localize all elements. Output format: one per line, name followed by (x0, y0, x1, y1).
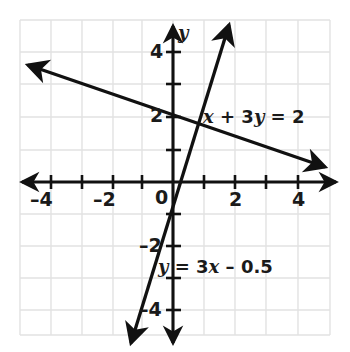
equation2-end: – 0.5 (219, 256, 272, 277)
graph-figure: y 4 2 –2 –4 0 –4 –2 2 4 x + 3y = 2 y = 3… (0, 0, 350, 352)
y-tick-label-4: 4 (150, 42, 163, 61)
plot-background (20, 20, 330, 335)
equation1-mid: + 3 (214, 106, 254, 127)
equation2-var-y: y (158, 256, 168, 277)
equation-label-line1: x + 3y = 2 (203, 108, 304, 126)
y-tick-label-2: 2 (150, 106, 163, 125)
equation1-var-y: y (254, 106, 264, 127)
equation2-var-x: x (209, 256, 220, 277)
y-axis-name: y (178, 24, 188, 42)
equation2-mid: = 3 (168, 256, 208, 277)
x-tick-label-4: 4 (292, 190, 305, 209)
equation-label-line2: y = 3x – 0.5 (158, 258, 273, 276)
origin-label: 0 (155, 188, 168, 207)
x-tick-label-neg4: –4 (30, 190, 53, 209)
x-tick-label-2: 2 (229, 190, 242, 209)
y-tick-label-neg4: –4 (139, 300, 162, 319)
coordinate-plane-svg (0, 0, 350, 352)
equation1-var-x: x (203, 106, 214, 127)
equation1-end: = 2 (264, 106, 304, 127)
y-tick-label-neg2: –2 (139, 236, 162, 255)
x-tick-label-neg2: –2 (93, 190, 116, 209)
